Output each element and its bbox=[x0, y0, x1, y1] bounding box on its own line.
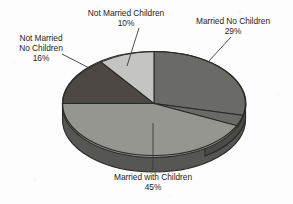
pie-top-face bbox=[62, 51, 246, 157]
slice-percent: 29% bbox=[181, 26, 285, 36]
slice-percent: 45% bbox=[92, 182, 214, 192]
slice-label-text-line1: Not Married bbox=[19, 33, 62, 43]
slice-label-text: Married No Children bbox=[196, 16, 270, 26]
slice-label-text: Married with Children bbox=[114, 172, 192, 182]
slice-label-text-line2: No Children bbox=[19, 43, 63, 53]
slice-label-married-no-children: Married No Children 29% bbox=[181, 16, 285, 36]
leader-line-married-no-children bbox=[208, 37, 231, 62]
slice-label-married-with-children: Married with Children 45% bbox=[92, 172, 214, 192]
slice-percent: 16% bbox=[4, 53, 78, 63]
slice-label-not-married-children: Not Married Children 10% bbox=[76, 8, 176, 28]
slice-label-not-married-no-children: Not Married No Children 16% bbox=[4, 33, 78, 64]
slice-label-text: Not Married Children bbox=[88, 8, 164, 18]
pie-chart-figure: Not Married Children 10% Married No Chil… bbox=[0, 0, 293, 204]
slice-percent: 10% bbox=[76, 18, 176, 28]
